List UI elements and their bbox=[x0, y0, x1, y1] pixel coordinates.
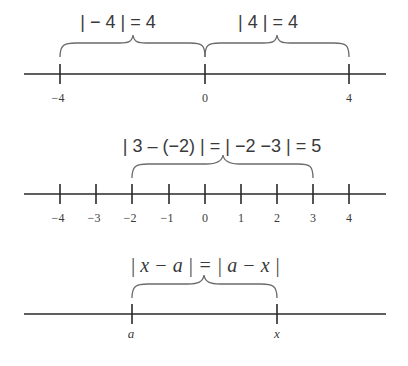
tick-label: 0 bbox=[202, 91, 208, 105]
tick-label: −4 bbox=[52, 91, 65, 105]
tick-label: 4 bbox=[346, 91, 352, 105]
abs-neg4-expression: | − 4 | = 4 bbox=[80, 12, 155, 32]
tick-label: −2 bbox=[124, 211, 137, 225]
panel-2: | 3 – (−2) | = | −2 −3 | = 5 −4 −3 −2 −1… bbox=[24, 136, 386, 225]
abs-4-expression: | 4 | = 4 bbox=[238, 12, 298, 32]
panel-3: | x − a | = | a − x | a x bbox=[24, 254, 386, 341]
tick-label: 3 bbox=[310, 211, 316, 225]
tick-label: −4 bbox=[52, 211, 65, 225]
brace-neg2-to-3 bbox=[132, 155, 313, 178]
tick-label: −1 bbox=[161, 211, 174, 225]
brace-0-to-4 bbox=[205, 35, 349, 57]
number-line-diagram: | − 4 | = 4 | 4 | = 4 −4 0 4 | 3 – (−2) … bbox=[0, 0, 408, 366]
distance-x-minus-a-expression: | x − a | = | a − x | bbox=[130, 254, 280, 277]
tick-label: 0 bbox=[202, 211, 208, 225]
tick-label-x: x bbox=[273, 326, 280, 341]
distance-3-minus-neg2-expression: | 3 – (−2) | = | −2 −3 | = 5 bbox=[123, 136, 321, 156]
tick-label: 1 bbox=[238, 211, 244, 225]
brace-neg4-to-0 bbox=[60, 35, 205, 57]
brace-a-to-x bbox=[132, 275, 277, 298]
tick-label: 2 bbox=[274, 211, 280, 225]
panel-1: | − 4 | = 4 | 4 | = 4 −4 0 4 bbox=[24, 12, 386, 105]
tick-label-a: a bbox=[128, 326, 135, 341]
tick-label: 4 bbox=[346, 211, 352, 225]
tick-label: −3 bbox=[88, 211, 101, 225]
